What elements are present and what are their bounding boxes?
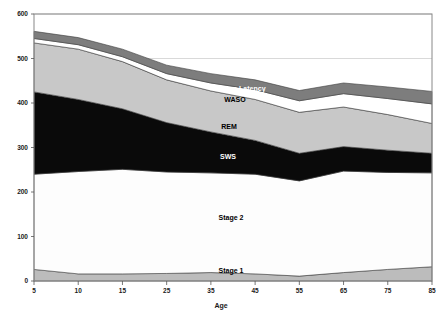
x-tick-label-75: 75: [384, 287, 392, 294]
y-tick-label-100: 100: [17, 233, 28, 240]
y-tick-label-0: 0: [24, 277, 28, 284]
series-label-rem: REM: [221, 123, 237, 130]
series-label-waso: WASO: [224, 96, 246, 103]
chart-canvas: 0100200300400500600 5101525354555657585 …: [0, 0, 442, 315]
y-tick-label-200: 200: [17, 188, 28, 195]
x-tick-label-85: 85: [428, 287, 436, 294]
x-tick-label-25: 25: [163, 287, 171, 294]
x-axis-title: Age: [214, 302, 227, 310]
x-tick-label-45: 45: [251, 287, 259, 294]
x-tick-label-15: 15: [119, 287, 127, 294]
series-label-sws: SWS: [220, 153, 236, 160]
x-tick-label-35: 35: [207, 287, 215, 294]
x-tick-label-5: 5: [32, 287, 36, 294]
y-tick-label-600: 600: [17, 10, 28, 17]
stacked-area-chart: 0100200300400500600 5101525354555657585 …: [0, 0, 442, 315]
x-tick-label-65: 65: [340, 287, 348, 294]
y-tick-label-300: 300: [17, 144, 28, 151]
area-series-stage-2: [34, 169, 432, 276]
series-label-stage-1: Stage 1: [219, 267, 244, 275]
y-tick-label-400: 400: [17, 99, 28, 106]
x-tick-label-55: 55: [296, 287, 304, 294]
series-label-sleep-latency: Sleep Latency: [218, 85, 265, 93]
y-tick-label-500: 500: [17, 55, 28, 62]
series-label-stage-2: Stage 2: [219, 214, 244, 222]
x-tick-label-10: 10: [75, 287, 83, 294]
